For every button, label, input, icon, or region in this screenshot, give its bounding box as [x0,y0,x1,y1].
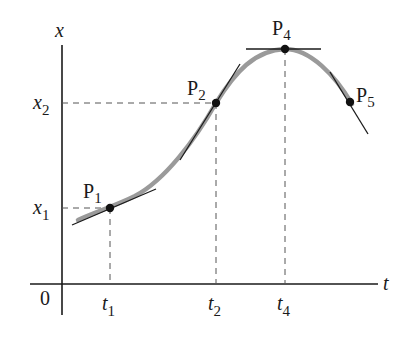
y-axis-label: x [54,19,64,41]
label-p5: P5 [356,84,375,110]
label-p4: P4 [272,17,291,43]
point-p1 [106,204,114,212]
position-curve [78,49,352,220]
point-p2 [212,99,220,107]
point-p4 [281,45,289,53]
t-tick-t2: t2 [208,292,221,319]
y-tick-x1: x1 [32,196,49,223]
point-p5 [346,98,354,106]
label-p2: P2 [187,77,206,103]
t-tick-t1: t1 [102,292,115,319]
tangent-lines [72,49,368,225]
position-time-diagram: x t 0 x1 x2 t1 t2 t4 P1 P2 P4 P5 [0,0,413,340]
x-axis-label: t [383,272,389,294]
label-p1: P1 [83,180,102,206]
t-tick-t4: t4 [277,292,291,319]
origin-label: 0 [40,287,50,309]
y-tick-x2: x2 [32,91,49,118]
